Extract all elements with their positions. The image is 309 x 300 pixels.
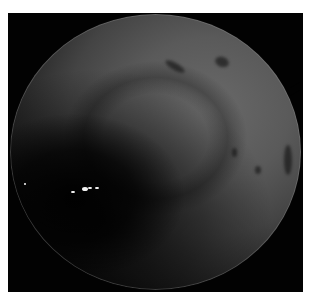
circular-view xyxy=(10,14,301,290)
dark-mark xyxy=(255,166,261,174)
image-frame xyxy=(8,13,303,292)
dark-mark xyxy=(284,145,292,175)
dark-mark xyxy=(232,148,237,157)
edge-notch xyxy=(290,82,300,96)
bright-speck xyxy=(24,183,26,184)
